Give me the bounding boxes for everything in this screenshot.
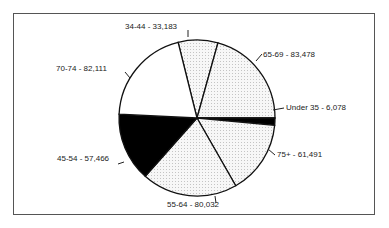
slice-label-45-54: 45-54 - 57,466: [57, 154, 109, 164]
slice-label-70-74: 70-74 - 82,111: [56, 64, 107, 74]
slice-label-34-44: 34-44 - 33,183: [125, 22, 177, 32]
slice-label-75-plus: 75+ - 61,491: [277, 150, 322, 160]
pie-chart: [0, 0, 389, 228]
slice-label-55-64: 55-64 - 80,032: [167, 200, 219, 210]
slice-label-under-35: Under 35 - 6,078: [286, 103, 346, 113]
slice-label-65-69: 65-69 - 83,478: [263, 50, 315, 60]
